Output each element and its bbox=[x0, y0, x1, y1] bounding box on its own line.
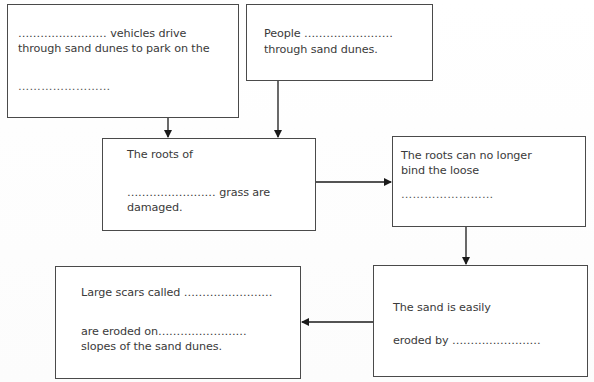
box-sand-easily-eroded: The sand is easily eroded by …………………… bbox=[373, 265, 588, 377]
box-people: People …………………… through sand dunes. bbox=[246, 4, 433, 81]
box-people-line-2: through sand dunes. bbox=[264, 42, 378, 57]
box-people-line-1: People …………………… bbox=[264, 26, 393, 41]
box-roots-line-2: …………………… grass are bbox=[127, 185, 270, 200]
box-roots-damaged: The roots of …………………… grass are damaged. bbox=[102, 138, 316, 231]
box-large-scars: Large scars called …………………… are eroded o… bbox=[55, 266, 301, 379]
box-eroded-line-2: eroded by …………………… bbox=[393, 333, 541, 348]
box-roots-no-longer-bind: The roots can no longer bind the loose …… bbox=[392, 136, 586, 227]
box-vehicles-line-3: …………………… bbox=[18, 79, 111, 94]
box-roots-line-1: The roots of bbox=[127, 147, 193, 162]
box-vehicles: …………………… vehicles drive through sand dun… bbox=[7, 4, 239, 118]
box-bind-line-2: bind the loose bbox=[401, 163, 479, 178]
box-eroded-line-1: The sand is easily bbox=[393, 300, 491, 315]
box-scars-line-3: slopes of the sand dunes. bbox=[81, 339, 222, 354]
box-scars-line-2: are eroded on…………………… bbox=[81, 324, 247, 339]
box-scars-line-1: Large scars called …………………… bbox=[81, 285, 272, 300]
diagram-canvas: …………………… vehicles drive through sand dun… bbox=[0, 0, 594, 382]
box-roots-line-3: damaged. bbox=[127, 200, 183, 215]
box-bind-line-1: The roots can no longer bbox=[401, 148, 532, 163]
box-vehicles-line-2: through sand dunes to park on the bbox=[18, 41, 209, 56]
box-bind-line-3: …………………… bbox=[401, 187, 494, 202]
box-vehicles-line-1: …………………… vehicles drive bbox=[18, 26, 186, 41]
